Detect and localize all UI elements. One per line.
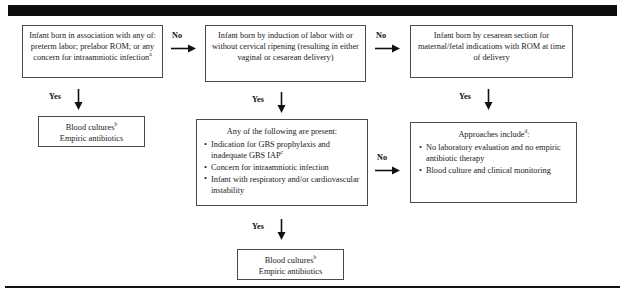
cesarean-section-box: Infant born by cesarean section for mate…: [410, 25, 573, 78]
arrow-down-4: [276, 218, 287, 241]
box5-heading: Any of the following are present:: [204, 126, 360, 137]
arrow-down-1: [73, 88, 84, 111]
box1-text: Infant born in association with any of: …: [29, 31, 156, 62]
box7-line1: Blood cultures: [265, 256, 314, 265]
no-label-3: No: [377, 153, 387, 162]
arrow-down-3: [483, 88, 494, 111]
box4-line1: Blood cultures: [66, 123, 115, 132]
footnote-marker-b-bottom: b: [313, 254, 316, 260]
clinical-findings-box: Any of the following are present: Indica…: [196, 119, 368, 206]
arrow-right-2: [374, 43, 401, 54]
box4-line2: Empiric antibiotics: [60, 134, 123, 143]
list-item: Concern for intraamniotic infection: [204, 162, 360, 173]
box5-bullet-1-text: Indication for GBS prophylaxis and inade…: [211, 140, 330, 160]
maternal-risk-criteria-box: Infant born in association with any of: …: [22, 25, 163, 78]
yes-label-1: Yes: [49, 92, 61, 101]
blood-cultures-left-box: Blood culturesb Empiric antibiotics: [38, 116, 145, 147]
approaches-box: Approaches included: No laboratory evalu…: [410, 122, 577, 203]
footnote-marker-b-left: b: [114, 121, 117, 127]
box5-bullet-list: Indication for GBS prophylaxis and inade…: [204, 139, 360, 196]
list-item: Indication for GBS prophylaxis and inade…: [204, 139, 360, 161]
box6-heading-text: Approaches include: [458, 130, 524, 139]
no-label-1: No: [172, 31, 182, 40]
footnote-marker-c: c: [281, 150, 283, 156]
box6-heading: Approaches included:: [419, 129, 569, 140]
box2-text: Infant born by induction of labor with o…: [212, 31, 359, 62]
box6-bullet-2-text: Blood culture and clinical monitoring: [426, 166, 551, 175]
box7-line2: Empiric antibiotics: [259, 267, 322, 276]
yes-label-2: Yes: [252, 95, 264, 104]
footnote-marker-a: a: [149, 52, 151, 58]
no-label-2: No: [376, 31, 386, 40]
blood-cultures-bottom-box: Blood culturesb Empiric antibiotics: [237, 249, 344, 280]
flowchart-figure: Infant born in association with any of: …: [0, 0, 625, 296]
yes-label-4: Yes: [252, 222, 264, 231]
arrow-right-1: [170, 43, 197, 54]
list-item: Blood culture and clinical monitoring: [419, 165, 569, 176]
box6-heading-colon: :: [527, 130, 529, 139]
box6-bullet-list: No laboratory evaluation and no empiric …: [419, 142, 569, 176]
arrow-right-3: [374, 165, 401, 176]
footer-rule: [5, 286, 620, 288]
box3-text: Infant born by cesarean section for mate…: [418, 31, 565, 62]
box5-bullet-2-text: Concern for intraamniotic infection: [211, 163, 329, 172]
box5-bullet-3-text: Infant with respiratory and/or cardiovas…: [211, 175, 359, 195]
yes-label-3: Yes: [459, 92, 471, 101]
list-item: Infant with respiratory and/or cardiovas…: [204, 174, 360, 196]
induction-of-labor-box: Infant born by induction of labor with o…: [205, 25, 366, 82]
arrow-down-2: [276, 91, 287, 114]
list-item: No laboratory evaluation and no empiric …: [419, 142, 569, 164]
box6-bullet-1-text: No laboratory evaluation and no empiric …: [426, 143, 561, 163]
header-rule-bar: [8, 5, 617, 16]
